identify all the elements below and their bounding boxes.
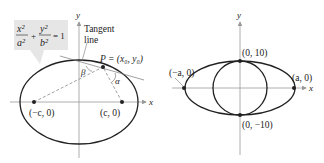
point-bottom [238, 113, 242, 117]
point-p [101, 65, 105, 69]
left-point-label: (−a, 0) [169, 68, 194, 79]
eq-term2-num: y² [39, 23, 48, 34]
tangent-label-line1: Tangent [84, 24, 115, 34]
angle-beta-arc [86, 66, 92, 71]
left-x-axis-label: x [148, 97, 153, 107]
point-top [238, 59, 242, 63]
right-x-axis-label: x [308, 83, 313, 93]
eq-plus: + [31, 31, 36, 41]
point-left [182, 86, 186, 90]
top-point-label: (0, 10) [242, 48, 267, 59]
eq-term1-num: x² [16, 23, 25, 34]
angle-alpha-label: α [115, 76, 120, 86]
left-y-axis-label: y [75, 10, 80, 20]
tangent-label-leader [82, 43, 87, 61]
focus-left [32, 100, 36, 104]
focus-right-label: (c, 0) [100, 108, 120, 119]
point-right [292, 86, 296, 90]
eq-term2-den: b² [40, 37, 49, 48]
focal-line-left [34, 67, 103, 102]
left-figure: x² a² + y² b² = 1 y x Tangent line P = (… [10, 10, 153, 158]
focus-left-label: (−c, 0) [29, 108, 54, 119]
right-point-label: (a, 0) [292, 73, 312, 84]
focus-right [120, 100, 124, 104]
eq-term1-den: a² [17, 37, 26, 48]
angle-beta-label: β [80, 67, 86, 77]
bottom-point-label: (0, −10) [242, 120, 273, 131]
right-y-axis-label: y [236, 10, 241, 20]
tangent-label-line2: line [84, 35, 98, 45]
eq-rhs: = 1 [53, 31, 65, 41]
equation-box-pointer [30, 50, 44, 64]
diagram-canvas: x² a² + y² b² = 1 y x Tangent line P = (… [0, 0, 324, 163]
left-label-leader [175, 78, 183, 86]
point-p-label: P = (x₀, y₀) [99, 54, 143, 65]
right-figure: y x (0, 10) (0, −10) (−a, 0) (a, 0) [169, 10, 313, 155]
